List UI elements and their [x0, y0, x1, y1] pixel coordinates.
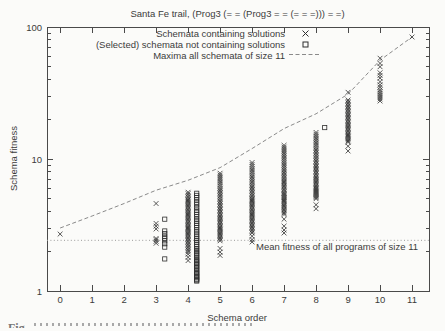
- legend-label-non-solutions: (Selected) schemata not containing solut…: [47, 39, 285, 50]
- y-axis-label: Schema fitness: [8, 99, 19, 219]
- tick-label: 10: [375, 294, 386, 305]
- mean-line-label: Mean fitness of all programs of size 11: [256, 241, 418, 252]
- tick-label: 9: [345, 294, 350, 305]
- tick-label: 3: [153, 294, 158, 305]
- tick-label: 2: [121, 294, 126, 305]
- legend-row-non-solutions: (Selected) schemata not containing solut…: [47, 39, 325, 50]
- figure-caption-clipped: Fig.: [8, 322, 318, 328]
- cross-marker-icon: [285, 29, 325, 38]
- tick-label: 10: [31, 154, 42, 165]
- tick-label: 5: [217, 294, 222, 305]
- tick-label: 100: [26, 22, 42, 33]
- square-marker-icon: [285, 40, 325, 49]
- legend: Schemata containing solutions (Selected)…: [47, 28, 325, 60]
- tick-label: 7: [281, 294, 286, 305]
- tick-label: 1: [89, 294, 94, 305]
- legend-row-solutions: Schemata containing solutions: [47, 28, 325, 39]
- dashed-line-icon: [285, 50, 325, 59]
- legend-row-maxima: Maxima all schemata of size 11: [47, 50, 325, 61]
- legend-label-maxima: Maxima all schemata of size 11: [47, 50, 285, 61]
- legend-label-solutions: Schemata containing solutions: [47, 28, 285, 39]
- tick-label: 0: [57, 294, 62, 305]
- tick-label: 1: [37, 286, 42, 297]
- tick-label: 11: [407, 294, 417, 305]
- axis-ticks: 01234567891011110100: [26, 22, 429, 306]
- solutions-points: [58, 35, 415, 263]
- figure-page: Santa Fe trail, (Prog3 (= = (Prog3 = = (…: [0, 0, 445, 331]
- tick-label: 4: [185, 294, 190, 305]
- caption-fragment: Fig.: [8, 322, 28, 328]
- maxima-line: [60, 37, 412, 228]
- caption-smudge: [34, 323, 252, 326]
- tick-label: 8: [313, 294, 318, 305]
- tick-label: 6: [249, 294, 254, 305]
